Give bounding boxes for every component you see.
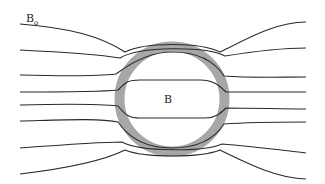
field-line-4 <box>20 80 306 92</box>
external-field-label: Bo <box>26 12 38 27</box>
magnetic-shielding-diagram: Bo B <box>0 0 325 184</box>
field-line-6 <box>20 120 306 148</box>
internal-field-label: B <box>164 93 172 106</box>
field-line-5 <box>20 104 306 118</box>
field-line-3 <box>20 52 306 77</box>
